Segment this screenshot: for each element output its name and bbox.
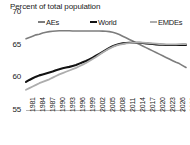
x-tick-1984: 1984 [39,97,46,112]
x-tick-2023: 2023 [169,97,176,112]
y-tick-65: 65 [5,40,21,49]
series-lines [26,12,186,110]
x-tick-2002: 2002 [99,97,106,112]
series-line-emdes [26,43,186,90]
chart-title: Percent of total population [10,2,100,11]
x-tick-1993: 1993 [69,97,76,112]
x-tick-1981: 1981 [29,97,36,112]
y-tick-70: 70 [5,7,21,16]
chart-container: Percent of total population AEsWorldEMDE… [0,0,190,145]
x-tick-1999: 1999 [89,97,96,112]
series-line-world [26,43,186,82]
x-tick-2008: 2008 [119,97,126,112]
x-tick-2026: 2026 [179,97,186,112]
x-tick-1996: 1996 [79,97,86,112]
x-tick-2014: 2014 [139,97,146,112]
x-tick-2020: 2020 [159,97,166,112]
x-tick-1987: 1987 [49,97,56,112]
y-tick-60: 60 [5,72,21,81]
x-tick-2011: 2011 [129,98,136,112]
x-tick-2029: 2029 [189,97,190,112]
x-tick-2017: 2017 [149,97,156,112]
x-tick-2005: 2005 [109,97,116,112]
plot-area [26,12,186,110]
y-tick-55: 55 [5,105,21,114]
x-tick-1990: 1990 [59,97,66,112]
